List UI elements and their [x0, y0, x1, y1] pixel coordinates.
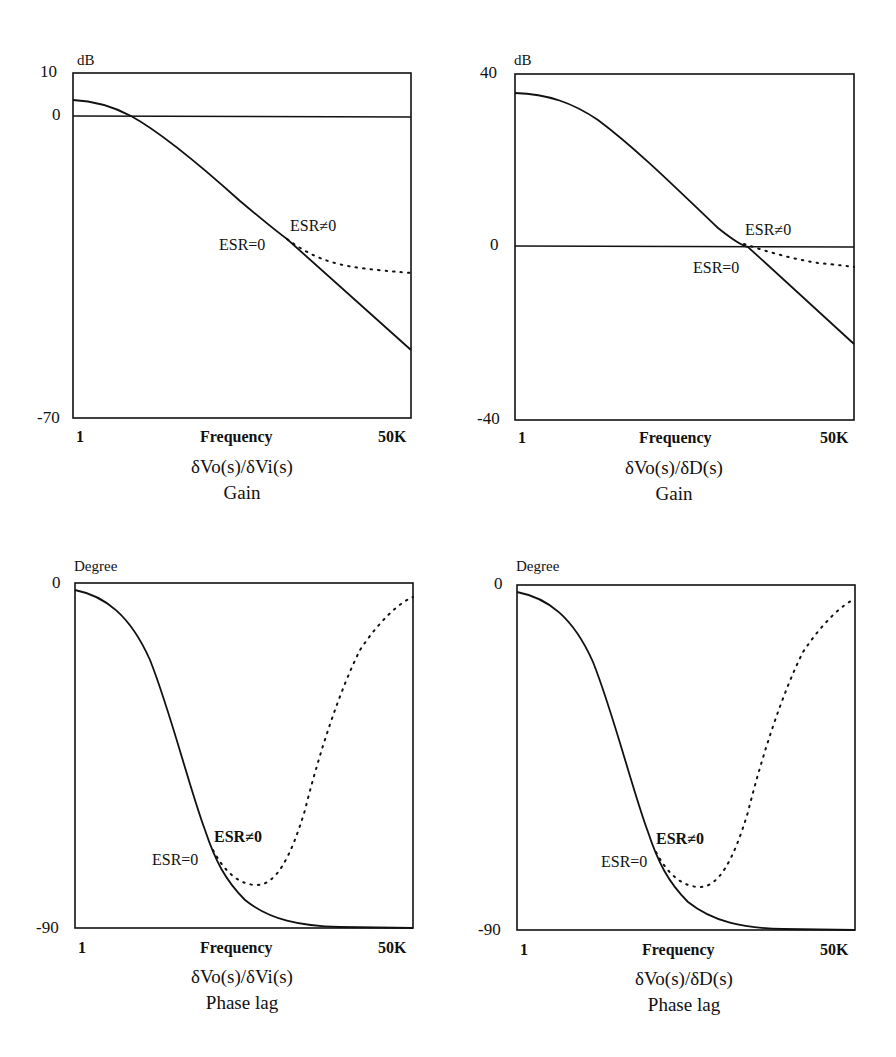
zero-reference-line [73, 116, 411, 117]
chart-gain-d: dB 40 0 -40 1 Frequency 50K ESR≠0 ESR=0 … [448, 0, 896, 530]
annotation-esr-zero: ESR=0 [219, 236, 265, 254]
x-tick-right: 50K [378, 939, 406, 957]
x-axis-label: Frequency [200, 939, 273, 957]
x-axis-label: Frequency [642, 941, 715, 959]
x-tick-right: 50K [820, 941, 848, 959]
y-tick-top: 40 [480, 63, 497, 83]
chart-phase-d: Degree 0 -90 1 Frequency 50K ESR≠0 ESR=0… [448, 530, 896, 1057]
x-tick-left: 1 [76, 428, 84, 446]
y-tick-top: 0 [52, 573, 61, 593]
y-tick-bottom: -90 [478, 920, 501, 940]
chart-gain-vi: dB 10 0 -70 1 Frequency 50K ESR≠0 ESR=0 … [0, 0, 448, 530]
chart-caption-type: Gain [92, 482, 392, 504]
chart-caption-type: Phase lag [534, 994, 834, 1016]
plot-area [0, 0, 448, 530]
y-unit-label: Degree [74, 558, 117, 575]
series-esr-zero [517, 592, 855, 930]
chart-caption-type: Gain [524, 483, 824, 505]
series-esr-zero [515, 93, 854, 344]
annotation-esr-zero: ESR=0 [152, 851, 198, 869]
y-tick-top: 10 [40, 62, 57, 82]
x-axis-label: Frequency [639, 429, 712, 447]
plot-area [448, 0, 896, 530]
y-tick-top: 0 [494, 574, 503, 594]
annotation-esr-zero: ESR=0 [693, 259, 739, 277]
annotation-esr-nonzero: ESR≠0 [745, 221, 791, 239]
chart-caption-transfer: δVo(s)/δD(s) [524, 457, 824, 479]
chart-caption-transfer: δVo(s)/δVi(s) [92, 456, 392, 478]
y-unit-label: Degree [516, 558, 559, 575]
series-esr-zero [73, 100, 411, 350]
y-tick-bottom: -90 [36, 918, 59, 938]
x-tick-left: 1 [78, 939, 86, 957]
y-tick-zero: 0 [52, 105, 61, 125]
annotation-esr-nonzero: ESR≠0 [214, 828, 262, 846]
annotation-esr-zero: ESR=0 [601, 853, 647, 871]
x-axis-label: Frequency [200, 428, 273, 446]
x-tick-left: 1 [518, 429, 526, 447]
y-tick-bottom: -40 [477, 409, 500, 429]
y-unit-label: dB [514, 52, 532, 69]
chart-caption-type: Phase lag [92, 992, 392, 1014]
x-tick-right: 50K [378, 428, 406, 446]
annotation-esr-nonzero: ESR≠0 [656, 830, 704, 848]
y-tick-bottom: -70 [37, 408, 60, 428]
chart-caption-transfer: δVo(s)/δVi(s) [92, 966, 392, 988]
y-tick-zero: 0 [490, 235, 499, 255]
x-tick-right: 50K [820, 429, 848, 447]
annotation-esr-nonzero: ESR≠0 [290, 217, 336, 235]
series-esr-zero [75, 590, 413, 928]
chart-phase-vi: Degree 0 -90 1 Frequency 50K ESR≠0 ESR=0… [0, 530, 448, 1057]
chart-caption-transfer: δVo(s)/δD(s) [534, 968, 834, 990]
y-unit-label: dB [77, 52, 95, 69]
x-tick-left: 1 [520, 941, 528, 959]
zero-reference-line [515, 246, 854, 247]
